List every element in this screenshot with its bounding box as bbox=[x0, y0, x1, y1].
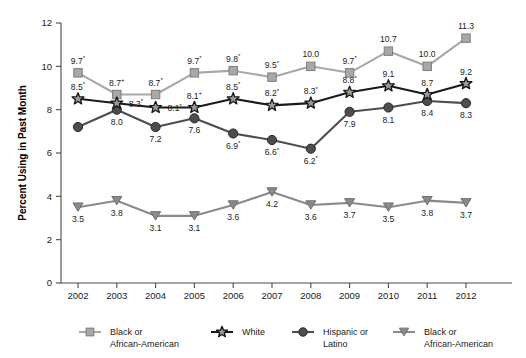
significance-marker: * bbox=[199, 55, 202, 61]
significance-marker: * bbox=[277, 147, 280, 153]
y-tick-label: 8 bbox=[47, 104, 52, 115]
star-marker-icon bbox=[305, 97, 317, 108]
significance-marker: * bbox=[160, 77, 163, 83]
line-chart: 0246810122002200320042005200620072008200… bbox=[0, 0, 526, 358]
data-label: 6.6* bbox=[265, 147, 280, 157]
square-marker-icon bbox=[190, 69, 198, 77]
significance-marker: * bbox=[354, 75, 357, 81]
data-label: 3.8 bbox=[111, 208, 123, 218]
square-marker-icon bbox=[229, 66, 237, 74]
y-tick-label: 4 bbox=[47, 191, 52, 202]
data-label: 9.5* bbox=[265, 60, 280, 70]
data-label: 3.6 bbox=[227, 212, 239, 222]
y-axis-title: Percent Using in Past Month bbox=[17, 85, 28, 221]
square-marker-icon bbox=[268, 73, 276, 81]
circle-marker-icon bbox=[267, 135, 276, 144]
square-marker-icon bbox=[86, 328, 94, 336]
circle-marker-icon bbox=[345, 107, 354, 116]
data-label: 8.1* bbox=[168, 103, 183, 113]
significance-marker: + bbox=[121, 77, 125, 83]
data-label: 9.2 bbox=[460, 67, 472, 77]
legend-item-0[interactable]: Black orAfrican-American bbox=[79, 327, 179, 349]
significance-marker: * bbox=[277, 88, 280, 94]
chart-legend: Black orAfrican-AmericanWhiteHispanic or… bbox=[79, 326, 493, 349]
legend-item-1[interactable]: White bbox=[211, 326, 265, 337]
data-label: 3.1 bbox=[188, 223, 200, 233]
data-label: 8.0 bbox=[111, 117, 123, 127]
circle-marker-icon bbox=[461, 99, 470, 108]
y-tick-label: 12 bbox=[41, 17, 52, 28]
significance-marker: * bbox=[141, 98, 144, 104]
data-label: 3.5 bbox=[72, 214, 84, 224]
circle-marker-icon bbox=[151, 122, 160, 131]
data-label: 8.1 bbox=[382, 115, 394, 125]
data-label: 8.4 bbox=[421, 108, 433, 118]
data-label: 8.7* bbox=[148, 77, 163, 87]
x-tick-label: 2010 bbox=[378, 290, 399, 301]
square-marker-icon bbox=[74, 69, 82, 77]
significance-marker: * bbox=[316, 155, 319, 161]
data-label: 3.5 bbox=[382, 214, 394, 224]
data-label: 10.7 bbox=[380, 34, 397, 44]
data-label: 8.5* bbox=[226, 81, 241, 91]
x-tick-label: 2004 bbox=[145, 290, 166, 301]
legend-label-line1: Black or bbox=[424, 327, 457, 337]
significance-marker: * bbox=[277, 60, 280, 66]
data-label: 7.6 bbox=[188, 125, 200, 135]
data-label: 8.8* bbox=[342, 75, 357, 85]
data-label: 8.5* bbox=[71, 81, 86, 91]
legend-label-line2: African-American bbox=[110, 339, 179, 349]
y-tick-label: 0 bbox=[47, 277, 52, 288]
legend-label-line2: African-American bbox=[424, 339, 493, 349]
circle-marker-icon bbox=[299, 328, 307, 336]
circle-marker-icon bbox=[384, 103, 393, 112]
significance-marker: * bbox=[238, 53, 241, 59]
data-label: 8.2* bbox=[265, 88, 280, 98]
data-label: 8.7 bbox=[421, 78, 433, 88]
star-marker-icon bbox=[421, 88, 433, 99]
star-marker-icon bbox=[150, 101, 162, 112]
square-marker-icon bbox=[384, 47, 392, 55]
significance-marker: * bbox=[83, 81, 86, 87]
data-label: 4.2 bbox=[266, 199, 278, 209]
square-marker-icon bbox=[462, 34, 470, 42]
star-marker-icon bbox=[217, 326, 228, 336]
significance-marker: * bbox=[238, 140, 241, 146]
data-label: 6.9* bbox=[226, 140, 241, 150]
data-label: 3.8 bbox=[421, 208, 433, 218]
significance-marker: * bbox=[354, 55, 357, 61]
x-tick-label: 2003 bbox=[106, 290, 127, 301]
x-tick-label: 2006 bbox=[223, 290, 244, 301]
star-marker-icon bbox=[344, 86, 356, 97]
chart-container: 0246810122002200320042005200620072008200… bbox=[0, 0, 526, 358]
x-tick-label: 2002 bbox=[67, 290, 88, 301]
data-label: 9.7* bbox=[342, 55, 357, 65]
data-label: 8.1+ bbox=[187, 90, 203, 100]
square-marker-icon bbox=[307, 62, 315, 70]
y-tick-label: 10 bbox=[41, 61, 52, 72]
data-label: 7.2 bbox=[150, 134, 162, 144]
legend-label-line2: Latino bbox=[323, 339, 348, 349]
significance-marker: * bbox=[238, 81, 241, 87]
star-marker-icon bbox=[266, 99, 278, 110]
significance-marker: + bbox=[199, 90, 203, 96]
legend-item-3[interactable]: Black orAfrican-American bbox=[393, 327, 493, 349]
data-label: 8.3 bbox=[460, 110, 472, 120]
y-tick-label: 6 bbox=[47, 147, 52, 158]
circle-marker-icon bbox=[229, 129, 238, 138]
circle-marker-icon bbox=[306, 144, 315, 153]
star-marker-icon bbox=[383, 80, 395, 91]
x-tick-label: 2005 bbox=[184, 290, 205, 301]
data-label: 10.0 bbox=[419, 49, 436, 59]
data-label: 7.9 bbox=[344, 119, 356, 129]
data-label: 8.3* bbox=[129, 98, 144, 108]
legend-item-2[interactable]: Hispanic orLatino bbox=[292, 327, 368, 349]
star-marker-icon bbox=[460, 77, 472, 88]
data-label: 9.7* bbox=[71, 55, 86, 65]
data-label: 8.3* bbox=[304, 86, 319, 96]
data-label: 6.2* bbox=[304, 155, 319, 165]
triangle-marker-icon bbox=[267, 188, 277, 196]
data-label: 10.0 bbox=[302, 49, 319, 59]
y-tick-label: 2 bbox=[47, 234, 52, 245]
star-marker-icon bbox=[227, 93, 239, 104]
